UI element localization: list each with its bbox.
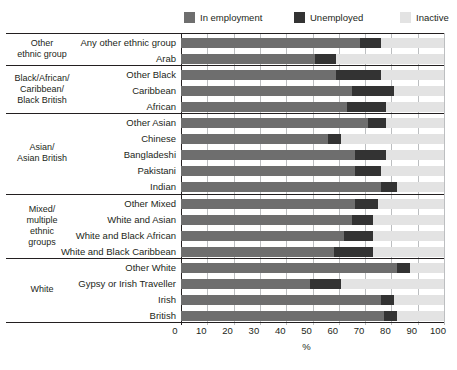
segment-in-employment: [181, 199, 355, 209]
segment-inactive: [373, 215, 444, 225]
category-label: Any other ethnic group: [80, 35, 176, 51]
segment-inactive: [386, 102, 444, 112]
segment-inactive: [341, 279, 444, 289]
segment-unemployed: [397, 263, 410, 273]
bar-row: [181, 182, 444, 192]
legend-swatch-employment-icon: [184, 12, 195, 23]
segment-unemployed: [344, 231, 373, 241]
segment-unemployed: [355, 166, 381, 176]
bar-row: [181, 311, 444, 321]
segment-inactive: [397, 182, 444, 192]
x-tick-10: 10: [196, 325, 207, 337]
bar-row: [181, 279, 444, 289]
category-label: Chinese: [80, 131, 176, 147]
category-label: Other Asian: [80, 115, 176, 131]
bar-row: [181, 166, 444, 176]
x-tick-70: 70: [354, 325, 365, 337]
segment-unemployed: [336, 70, 381, 80]
bar-row: [181, 231, 444, 241]
segment-inactive: [378, 199, 444, 209]
group-label: Asian/Asian British: [6, 113, 78, 193]
group-label: White: [6, 258, 78, 322]
segment-inactive: [381, 38, 444, 48]
segment-in-employment: [181, 166, 355, 176]
bar-row: [181, 215, 444, 225]
segment-inactive: [381, 166, 444, 176]
category-label: Bangladeshi: [80, 147, 176, 163]
ethnicity-employment-chart: In employment Unemployed Inactive Any ot…: [0, 0, 457, 370]
x-tick-20: 20: [222, 325, 233, 337]
x-tick-90: 90: [406, 325, 417, 337]
x-tick-100: 100: [430, 325, 446, 337]
x-axis: 0102030405060708090100: [175, 325, 438, 339]
bar-row: [181, 247, 444, 257]
x-tick-0: 0: [172, 325, 177, 337]
segment-unemployed: [352, 215, 373, 225]
table-rule: [6, 322, 444, 323]
segment-unemployed: [381, 295, 394, 305]
segment-inactive: [373, 231, 444, 241]
segment-inactive: [394, 86, 444, 96]
legend-item-inactive: Inactive: [400, 12, 449, 23]
x-tick-60: 60: [328, 325, 339, 337]
segment-unemployed: [368, 118, 386, 128]
segment-in-employment: [181, 54, 315, 64]
segment-unemployed: [360, 38, 381, 48]
group-label: Otherethnic group: [6, 33, 78, 65]
segment-in-employment: [181, 118, 368, 128]
legend-swatch-inactive-icon: [400, 12, 411, 23]
segment-inactive: [410, 263, 444, 273]
segment-inactive: [381, 70, 444, 80]
segment-in-employment: [181, 86, 352, 96]
category-label: White and Black African: [80, 228, 176, 244]
segment-unemployed: [352, 86, 394, 96]
segment-in-employment: [181, 134, 328, 144]
segment-in-employment: [181, 279, 310, 289]
segment-in-employment: [181, 38, 360, 48]
bar-row: [181, 295, 444, 305]
x-tick-50: 50: [301, 325, 312, 337]
legend-swatch-unemployed-icon: [294, 12, 305, 23]
category-label: Other White: [80, 260, 176, 276]
segment-unemployed: [355, 150, 387, 160]
category-label: Pakistani: [80, 163, 176, 179]
bar-row: [181, 86, 444, 96]
bar-row: [181, 38, 444, 48]
segment-in-employment: [181, 150, 355, 160]
group-label: Mixed/multipleethnicgroups: [6, 194, 78, 258]
segment-inactive: [386, 118, 444, 128]
x-tick-80: 80: [380, 325, 391, 337]
segment-unemployed: [310, 279, 342, 289]
segment-in-employment: [181, 295, 381, 305]
x-axis-title: %: [175, 341, 438, 352]
group-label: Black/African/Caribbean/Black British: [6, 65, 78, 113]
segment-unemployed: [381, 182, 397, 192]
plot-area: [181, 33, 444, 325]
bar-row: [181, 118, 444, 128]
bar-row: [181, 199, 444, 209]
chart-body: Any other ethnic groupArabOther BlackCar…: [6, 33, 450, 325]
segment-inactive: [397, 311, 444, 321]
x-tick-30: 30: [249, 325, 260, 337]
segment-in-employment: [181, 247, 334, 257]
segment-in-employment: [181, 231, 344, 241]
chart-legend: In employment Unemployed Inactive: [180, 12, 448, 26]
legend-label-inactive: Inactive: [416, 12, 449, 23]
segment-inactive: [386, 150, 444, 160]
category-label: Irish: [80, 292, 176, 308]
category-label: Other Black: [80, 67, 176, 83]
segment-unemployed: [328, 134, 341, 144]
bar-row: [181, 134, 444, 144]
bar-row: [181, 54, 444, 64]
segment-unemployed: [355, 199, 379, 209]
segment-in-employment: [181, 263, 397, 273]
segment-unemployed: [384, 311, 397, 321]
bar-row: [181, 70, 444, 80]
bar-row: [181, 150, 444, 160]
legend-label-in-employment: In employment: [200, 12, 262, 23]
category-label: Gypsy or Irish Traveller: [80, 276, 176, 292]
x-tick-40: 40: [275, 325, 286, 337]
segment-inactive: [336, 54, 444, 64]
category-label: White and Asian: [80, 212, 176, 228]
segment-in-employment: [181, 215, 352, 225]
